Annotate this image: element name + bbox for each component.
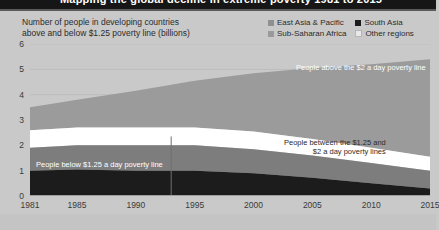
top-banner: Mapping the global decline in extreme po… bbox=[0, 0, 436, 9]
legend-swatch-icon bbox=[355, 30, 362, 37]
y-axis-tick-label: 1 bbox=[19, 166, 24, 176]
x-axis-labels: 19811985199019952000200520102015 bbox=[0, 200, 436, 214]
chart-subtitle-line1: Number of people in developing countries bbox=[22, 17, 190, 28]
banner-title: Mapping the global decline in extreme po… bbox=[60, 0, 382, 5]
chart-subtitle: Number of people in developing countries… bbox=[22, 17, 190, 38]
legend-label: East Asia & Pacific bbox=[277, 18, 344, 27]
annotation-between-line1: People between the $1.25 and bbox=[284, 138, 386, 147]
legend-item-sub-saharan-africa[interactable]: Sub-Saharan Africa bbox=[268, 29, 346, 38]
chart-subtitle-line2: above and below $1.25 poverty line (bill… bbox=[22, 28, 190, 39]
x-axis-tick-label: 1990 bbox=[126, 200, 145, 210]
x-axis-tick-label: 1981 bbox=[21, 200, 40, 210]
legend-item-other-regions[interactable]: Other regions bbox=[355, 29, 413, 38]
y-axis-labels: 0123456 bbox=[0, 38, 28, 204]
annotation-above-2-dollar: People above the $2 a day poverty line bbox=[296, 63, 426, 72]
y-axis-tick-label: 2 bbox=[19, 140, 24, 150]
legend-label: South Asia bbox=[364, 18, 402, 27]
legend-item-east-asia-pacific[interactable]: East Asia & Pacific bbox=[268, 18, 346, 27]
bottom-strip bbox=[0, 214, 436, 230]
annotation-between-lines: People between the $1.25 and $2 a day po… bbox=[284, 138, 386, 156]
x-axis-tick-label: 2015 bbox=[421, 200, 439, 210]
annotation-between-line2: $2 a day poverty lines bbox=[284, 147, 386, 156]
y-axis-tick-label: 4 bbox=[19, 90, 24, 100]
legend-label: Other regions bbox=[365, 29, 413, 38]
x-axis-tick-label: 2005 bbox=[303, 200, 322, 210]
annotation-below-125: People below $1.25 a day poverty line bbox=[36, 160, 163, 169]
y-axis-tick-label: 5 bbox=[19, 64, 24, 74]
x-axis-tick-label: 1995 bbox=[185, 200, 204, 210]
y-axis-tick-label: 3 bbox=[19, 115, 24, 125]
y-axis-tick-label: 6 bbox=[19, 39, 24, 49]
legend-item-south-asia[interactable]: South Asia bbox=[355, 18, 413, 27]
legend-swatch-icon bbox=[268, 20, 274, 26]
legend-swatch-icon bbox=[355, 20, 361, 26]
legend-label: Sub-Saharan Africa bbox=[277, 29, 346, 38]
x-axis-tick-label: 2000 bbox=[244, 200, 263, 210]
x-axis-tick-label: 1985 bbox=[68, 200, 87, 210]
chart-legend: East Asia & Pacific South Asia Sub-Sahar… bbox=[268, 18, 414, 38]
legend-swatch-icon bbox=[268, 31, 274, 37]
x-axis-tick-label: 2010 bbox=[362, 200, 381, 210]
banner-divider bbox=[0, 9, 436, 11]
